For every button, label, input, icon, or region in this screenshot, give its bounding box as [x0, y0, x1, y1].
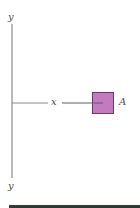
- x-axis-label: x: [51, 97, 57, 107]
- bottom-divider-bar: [9, 205, 140, 208]
- y-axis-label-bottom: y: [8, 181, 14, 191]
- y-axis-label-top: y: [8, 12, 14, 22]
- diagram: y x A y: [0, 0, 140, 208]
- block-label: A: [119, 97, 126, 107]
